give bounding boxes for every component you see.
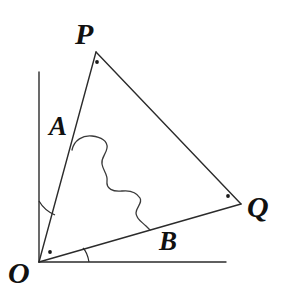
irregular-region-boundary	[72, 136, 150, 230]
dot-near-O	[48, 250, 52, 254]
dot-near-P	[95, 60, 99, 64]
side-PQ	[96, 52, 241, 204]
side-OP	[39, 52, 96, 262]
region-label-b: B	[159, 228, 177, 255]
vertex-label-o: O	[8, 258, 30, 288]
geometry-figure: P Q O A B	[0, 0, 294, 301]
angle-arc-B	[83, 248, 89, 262]
vertex-label-p: P	[75, 19, 93, 49]
figure-canvas	[0, 0, 294, 301]
side-OQ	[39, 204, 241, 262]
dot-near-Q	[226, 194, 230, 198]
vertex-label-q: Q	[247, 192, 269, 222]
region-label-a: A	[49, 113, 67, 140]
